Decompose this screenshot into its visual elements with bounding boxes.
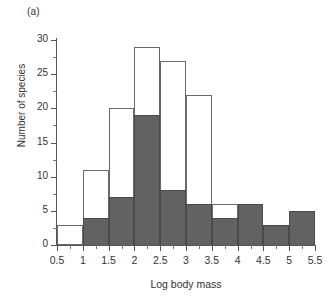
y-tick-label: 30 — [20, 33, 48, 44]
x-tick-mark — [83, 245, 84, 251]
x-tick-minor — [251, 245, 252, 249]
x-tick-minor — [199, 245, 200, 249]
bar-segment-dark — [238, 204, 264, 245]
bar-segment-dark — [263, 225, 289, 246]
plot-area — [57, 40, 315, 245]
x-tick-minor — [96, 245, 97, 249]
bar-segment-dark — [109, 197, 135, 245]
histogram-bar — [160, 40, 186, 245]
x-tick-mark — [315, 245, 316, 251]
histogram-bar — [134, 40, 160, 245]
bar-segment-dark — [186, 204, 212, 245]
x-tick-minor — [122, 245, 123, 249]
histogram-bar — [289, 40, 315, 245]
histogram-figure: (a) Number of species Log body mass 0510… — [0, 0, 335, 301]
x-tick-mark — [212, 245, 213, 251]
x-tick-mark — [134, 245, 135, 251]
histogram-bar — [186, 40, 212, 245]
bar-segment-dark — [134, 115, 160, 245]
histogram-bar — [263, 40, 289, 245]
x-tick-mark — [238, 245, 239, 251]
y-tick-label: 15 — [20, 136, 48, 147]
x-tick-mark — [289, 245, 290, 251]
x-tick-label: 5.5 — [298, 254, 332, 266]
histogram-bar — [83, 40, 109, 245]
histogram-bar — [238, 40, 264, 245]
x-tick-mark — [109, 245, 110, 251]
y-tick-label: 10 — [20, 170, 48, 181]
y-tick-label: 5 — [20, 204, 48, 215]
x-tick-minor — [70, 245, 71, 249]
x-tick-minor — [225, 245, 226, 249]
x-axis-title: Log body mass — [57, 278, 315, 290]
x-tick-mark — [57, 245, 58, 251]
bar-segment-dark — [212, 218, 238, 245]
x-tick-mark — [160, 245, 161, 251]
x-tick-minor — [147, 245, 148, 249]
x-tick-minor — [302, 245, 303, 249]
y-tick-label: 25 — [20, 67, 48, 78]
x-tick-minor — [173, 245, 174, 249]
x-tick-mark — [263, 245, 264, 251]
bar-segment-dark — [160, 190, 186, 245]
x-tick-mark — [186, 245, 187, 251]
histogram-bar — [109, 40, 135, 245]
y-tick-label: 20 — [20, 101, 48, 112]
x-tick-minor — [276, 245, 277, 249]
bar-segment-light — [57, 225, 83, 246]
panel-label: (a) — [27, 6, 40, 17]
histogram-bar — [212, 40, 238, 245]
y-tick-label: 0 — [20, 238, 48, 249]
bar-segment-dark — [289, 211, 315, 245]
histogram-bar — [57, 40, 83, 245]
bar-segment-dark — [83, 218, 109, 245]
